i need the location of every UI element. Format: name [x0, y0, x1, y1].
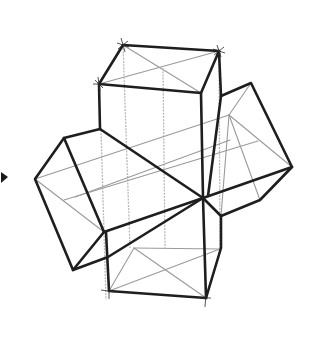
triangle-right-marker-icon	[1, 172, 8, 183]
sketch-canvas	[0, 0, 312, 340]
vertical-box-outline	[99, 45, 221, 298]
right-box-outline	[203, 83, 292, 216]
